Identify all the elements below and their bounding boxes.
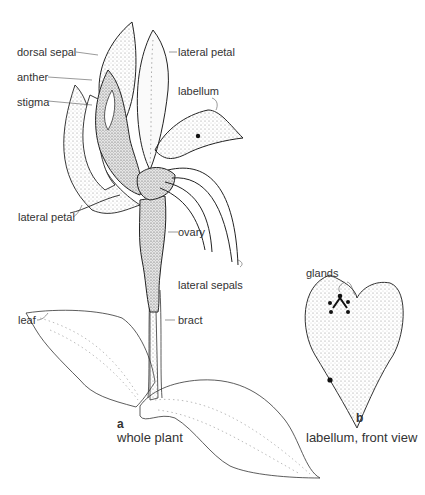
label-stigma: stigma (17, 96, 49, 108)
label-glands: glands (306, 267, 338, 279)
label-bract: bract (178, 314, 202, 326)
leaf-bottom (140, 380, 320, 478)
label-labellum: labellum (178, 85, 219, 97)
label-leaf: leaf (18, 314, 36, 326)
label-ovary: ovary (178, 226, 205, 238)
panel-letter-b: b (356, 411, 363, 425)
ovary-shape (140, 196, 166, 312)
label-lateral-sepals: lateral sepals (178, 279, 243, 291)
labellum-front-view (305, 275, 403, 428)
label-lateral-petal-left: lateral petal (18, 211, 75, 223)
label-lateral-petal-top: lateral petal (178, 46, 235, 58)
label-dorsal-sepal: dorsal sepal (17, 46, 76, 58)
panel-letter-a: a (117, 417, 124, 431)
leaf-left (26, 310, 155, 407)
label-anther: anther (17, 71, 48, 83)
caption-labellum-front-view: labellum, front view (306, 430, 417, 445)
caption-whole-plant: whole plant (117, 430, 183, 445)
